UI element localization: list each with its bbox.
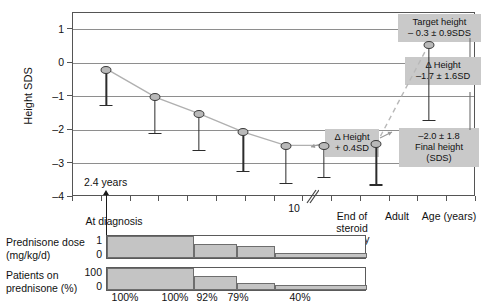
patients-axis-bottom: 0 <box>78 280 102 292</box>
error-bar <box>106 70 107 105</box>
error-bar-cap <box>100 105 113 106</box>
percent-label: 100% <box>112 291 139 303</box>
patients-axis-top: 100 <box>78 266 102 278</box>
panel-title-patients-on-prednisone: Patients on prednisone (%) <box>6 269 77 294</box>
data-point-marker[interactable] <box>101 66 112 74</box>
error-bar-cap <box>192 150 205 151</box>
error-bar-cap <box>237 171 250 172</box>
error-bar-cap <box>370 184 383 185</box>
projection-dashed-line <box>376 45 428 144</box>
panel-bar-segment <box>194 276 237 290</box>
panel-bar-segment <box>275 253 367 258</box>
error-bar <box>285 146 286 183</box>
percent-label: 100% <box>162 291 189 303</box>
panel-bar-segment <box>237 283 275 290</box>
error-bar <box>376 144 377 184</box>
data-point-marker[interactable] <box>371 140 382 148</box>
error-bar <box>428 45 429 120</box>
dose-axis-top: 1 <box>88 234 102 246</box>
error-bar-cap <box>148 133 161 134</box>
growth-chart-figure: Height SDS 10–1–2–3–4 10 At diagnosis En… <box>0 0 485 304</box>
error-bar <box>243 132 244 170</box>
data-point-marker[interactable] <box>423 41 434 49</box>
data-point-marker[interactable] <box>280 142 291 150</box>
panel-bar-segment <box>107 268 194 290</box>
percent-label: 40% <box>289 291 310 303</box>
data-point-marker[interactable] <box>193 110 204 118</box>
panel-bar-segment <box>275 285 367 290</box>
panel-title-prednisone-dose: Prednisone dose (mg/kg/d) <box>6 236 85 261</box>
error-bar <box>323 146 324 177</box>
error-bar <box>198 114 199 150</box>
panel-prednisone-dose <box>106 235 366 259</box>
panel-patients-on-prednisone <box>106 267 366 291</box>
dose-axis-bottom: 0 <box>88 248 102 260</box>
panel-bar-segment <box>237 246 275 258</box>
percent-label: 92% <box>196 291 217 303</box>
error-bar <box>154 97 155 133</box>
panel-bar-segment <box>107 236 194 258</box>
percent-label: 79% <box>227 291 248 303</box>
error-bar-cap <box>279 183 292 184</box>
error-bar-cap <box>317 177 330 178</box>
error-bar-cap <box>422 120 435 121</box>
data-point-marker[interactable] <box>149 93 160 101</box>
panel-bar-segment <box>194 244 237 258</box>
data-point-marker[interactable] <box>318 142 329 150</box>
data-point-marker[interactable] <box>238 128 249 136</box>
